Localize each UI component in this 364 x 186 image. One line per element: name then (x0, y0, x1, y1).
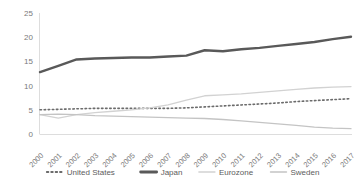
x-tick-label: 2005 (119, 151, 137, 169)
line-chart: 0510152025 20002001200220032004200520062… (0, 0, 364, 186)
y-tick-label: 20 (24, 33, 33, 42)
series-paths (40, 37, 351, 129)
legend-label-sweden: Sweden (291, 168, 320, 177)
x-tick-label: 2001 (46, 151, 64, 169)
x-tick-label: 2006 (137, 151, 155, 169)
y-tick-label: 5 (29, 106, 34, 115)
legend-label-eurozone: Eurozone (219, 168, 254, 177)
series-line-sweden (40, 114, 351, 129)
x-tick-label: 2002 (64, 151, 82, 169)
x-axis-group: 2000200120022003200420052006200720082009… (27, 135, 356, 170)
x-tick-label: 2009 (192, 151, 210, 169)
x-tick-label: 2007 (155, 151, 173, 169)
x-tick-labels: 2000200120022003200420052006200720082009… (27, 151, 356, 169)
x-tick-label: 2003 (82, 151, 100, 169)
chart-legend: United StatesJapanEurozoneSweden (47, 168, 320, 177)
x-tick-label: 2017 (338, 151, 356, 169)
x-tick-label: 2014 (283, 151, 301, 169)
y-tick-label: 10 (24, 82, 33, 91)
y-tick-labels: 0510152025 (24, 9, 33, 139)
x-tick-label: 2013 (265, 151, 283, 169)
series-line-eurozone (40, 87, 351, 118)
series-line-japan (40, 37, 351, 72)
x-tick-label: 2016 (320, 151, 338, 169)
x-tick-label: 2012 (247, 151, 265, 169)
y-axis-group: 0510152025 (24, 9, 39, 139)
y-tick-label: 25 (24, 9, 33, 18)
y-tick-label: 15 (24, 57, 33, 66)
x-tick-label: 2000 (27, 151, 45, 169)
x-tick-label: 2015 (302, 151, 320, 169)
x-tick-label: 2004 (100, 151, 118, 169)
chart-canvas: 0510152025 20002001200220032004200520062… (0, 0, 364, 186)
x-tick-label: 2011 (229, 151, 247, 169)
x-tick-label: 2008 (174, 151, 192, 169)
y-tick-label: 0 (29, 130, 34, 139)
legend-label-japan: Japan (161, 168, 183, 177)
x-tick-label: 2010 (210, 151, 228, 169)
series-line-united-states (40, 99, 351, 110)
legend-label-united-states: United States (67, 168, 115, 177)
